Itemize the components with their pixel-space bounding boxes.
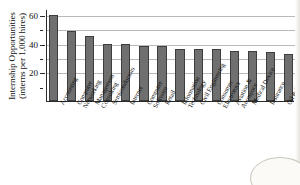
y-axis-tick-labels: 204060 bbox=[22, 0, 38, 112]
y-axis-tick-label: 40 bbox=[29, 40, 38, 49]
bar bbox=[49, 15, 58, 101]
y-axis-tick-label: 20 bbox=[29, 69, 38, 78]
y-axis-minor-tick bbox=[40, 88, 43, 89]
x-axis-category-labels: AccountingComputerNetworkingManagementCo… bbox=[46, 103, 294, 185]
bar-chart: Internship Opportunities (interns per 1,… bbox=[0, 0, 300, 185]
y-axis-major-tick bbox=[40, 73, 45, 74]
y-axis-minor-tick bbox=[40, 30, 43, 31]
y-axis-tick-label: 60 bbox=[29, 11, 38, 20]
y-axis-title-line-1: Internship Opportunities bbox=[8, 12, 18, 100]
y-axis-major-tick bbox=[40, 16, 45, 17]
y-axis-minor-tick bbox=[40, 59, 43, 60]
bar bbox=[175, 49, 184, 101]
y-axis-major-tick bbox=[40, 45, 45, 46]
